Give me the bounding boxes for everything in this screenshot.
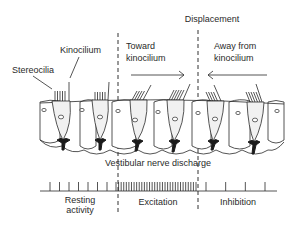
kinocilium xyxy=(143,85,151,100)
stereocilia-bundle xyxy=(55,91,65,101)
kinocilium-label: Kinocilium xyxy=(60,45,101,55)
hair-cell-3 xyxy=(130,85,151,151)
stereocilia-bundle xyxy=(169,90,184,100)
resting-label-line2: activity xyxy=(66,205,94,215)
kinocilium xyxy=(183,84,190,100)
hair-cell-5 xyxy=(206,85,224,150)
nerve-terminal xyxy=(95,139,106,151)
stereocilia-bundle xyxy=(206,92,218,101)
toward-label-line2: kinocilium xyxy=(126,53,166,63)
arrow-left-icon xyxy=(208,71,267,79)
kinocilium-leader-line xyxy=(70,57,79,78)
kinocilium xyxy=(214,85,221,101)
stereocilia-label: Stereocilia xyxy=(12,65,54,75)
kinocilium xyxy=(108,82,109,100)
nerve-terminal xyxy=(57,139,70,151)
toward-label-line1: Toward xyxy=(126,41,155,51)
resting-label-line1: Resting xyxy=(65,195,96,205)
away-label-line1: Away from xyxy=(214,41,256,51)
spike-train xyxy=(50,182,265,191)
arrow-right-icon xyxy=(131,71,184,79)
stereocilia-leader-line xyxy=(33,76,52,89)
displacement-title: Displacement xyxy=(185,14,240,24)
nerve-discharge-label: Vestibular nerve discharge xyxy=(105,158,211,168)
away-label-line2: kinocilium xyxy=(214,53,254,63)
inhibition-label: Inhibition xyxy=(220,197,256,207)
vestibular-hair-cell-diagram: Displacement Toward kinocilium Away from… xyxy=(0,0,296,229)
excitation-label: Excitation xyxy=(138,197,177,207)
hair-cell-4 xyxy=(167,84,190,152)
hair-cell-2 xyxy=(92,82,109,150)
stereocilia-bundle xyxy=(132,91,145,100)
nerve-terminal xyxy=(248,141,260,155)
stereocilia-bundle xyxy=(95,92,105,100)
diagram-canvas: Displacement Toward kinocilium Away from… xyxy=(0,0,296,229)
